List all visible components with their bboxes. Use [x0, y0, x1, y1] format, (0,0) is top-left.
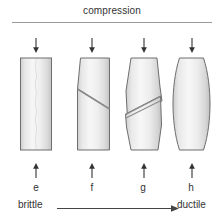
specimen-label-e: e: [16, 182, 56, 193]
down-arrow-icon: [32, 38, 41, 53]
scale-label-brittle: brittle: [18, 199, 42, 210]
specimen-label-g: g: [123, 182, 163, 193]
title-divider: [12, 22, 212, 23]
down-arrow-icon: [140, 38, 149, 53]
figure-title: compression: [0, 5, 224, 16]
down-arrow-icon: [188, 38, 197, 53]
up-arrow-icon: [88, 163, 97, 178]
up-arrow-icon: [140, 163, 149, 178]
specimen-g: [122, 38, 166, 178]
specimen-g-body: [122, 57, 166, 151]
down-arrow-icon: [88, 38, 97, 53]
up-arrow-icon: [188, 163, 197, 178]
specimen-label-f: f: [72, 182, 112, 193]
right-arrow-icon: [57, 204, 179, 213]
brittle-ductile-scale: brittle ductile: [0, 199, 224, 215]
up-arrow-icon: [32, 163, 41, 178]
specimen-f-body: [72, 57, 112, 151]
specimen-h: [170, 38, 214, 178]
specimen-label-h: h: [171, 182, 211, 193]
compression-failure-figure: compression: [0, 0, 224, 216]
specimen-h-body: [170, 57, 214, 151]
specimen-e-body: [16, 57, 56, 151]
specimen-e: [16, 38, 56, 178]
specimen-f: [72, 38, 112, 178]
scale-label-ductile: ductile: [177, 199, 206, 210]
